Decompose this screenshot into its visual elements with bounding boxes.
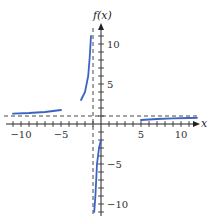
function-curve-branch [13,110,61,114]
function-curve-branch [94,140,101,212]
x-axis-arrow-icon [193,121,200,127]
x-tick-label: −5 [54,129,69,140]
axes [6,23,200,216]
y-tick-label: −10 [107,199,128,210]
function-curve-branch [81,36,91,100]
y-tick-label: 10 [107,39,120,50]
x-tick-label: 10 [175,129,188,140]
function-graph: −10−5510105−5−10 f(x) x [0,0,213,222]
function-curve-branch [141,118,197,120]
y-axis-arrow-icon [98,23,104,30]
y-axis-label: f(x) [92,9,112,22]
y-tick-label: 5 [107,79,113,90]
y-tick-label: −5 [107,159,122,170]
x-tick-label: −10 [10,129,31,140]
x-axis-label: x [201,117,208,130]
x-tick-label: 5 [138,129,144,140]
